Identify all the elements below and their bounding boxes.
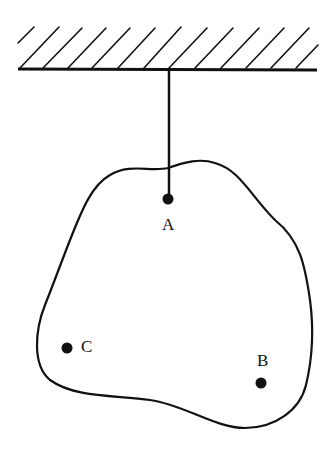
point-c-label: C <box>81 337 92 356</box>
point-c-marker <box>62 343 73 354</box>
point-b-marker <box>256 378 267 389</box>
diagram-canvas: A B C <box>0 0 334 457</box>
point-b-label: B <box>257 351 268 370</box>
point-a-label: A <box>162 215 175 234</box>
point-a-marker <box>163 194 174 205</box>
ceiling-line <box>18 69 317 70</box>
rigid-body-outline <box>37 161 312 428</box>
ceiling-hatching <box>18 27 318 68</box>
